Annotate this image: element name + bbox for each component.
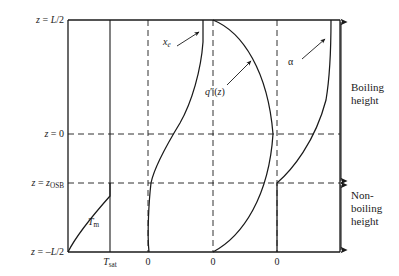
y-tick-text-zero: z = 0 <box>44 128 64 139</box>
x-tick-text-alpha-zero: 0 <box>275 256 280 267</box>
bracket-label-non-boiling-line-2: boiling <box>351 202 382 215</box>
x-tick-label-xe-zero: 0 <box>133 256 163 268</box>
x-tick-text-tsat: Tsat <box>103 256 117 267</box>
figure-container: z = L/2 z = 0 z = zOSB z = –L/2 Tsat 0 0… <box>0 0 399 276</box>
curve-label-heat-transfer-coefficient: α <box>288 56 293 68</box>
x-tick-text-xe-zero: 0 <box>146 256 151 267</box>
y-tick-label-top: z = L/2 <box>4 14 64 26</box>
curve-label-text-xe: xe <box>163 36 171 47</box>
y-tick-label-bottom: z = –L/2 <box>4 246 64 258</box>
bracket-label-boiling-line-2: height <box>351 94 384 107</box>
leader-arrow-heat-flux <box>227 61 251 85</box>
y-tick-text-bottom: z = –L/2 <box>31 246 64 257</box>
curve-label-moderator-temperature: Tm <box>88 216 99 229</box>
bracket-label-non-boiling-height: Non- boiling height <box>351 189 382 228</box>
y-tick-text-osb: z = zOSB <box>32 177 64 188</box>
vertical-reference-lines <box>110 20 277 252</box>
bracket-label-non-boiling-line-3: height <box>351 215 382 228</box>
plot-frame <box>68 20 340 252</box>
curve-heat-flux <box>213 20 273 252</box>
y-tick-label-zero: z = 0 <box>4 128 64 140</box>
curve-label-text-tm: Tm <box>88 216 99 227</box>
x-tick-label-tsat: Tsat <box>90 256 130 269</box>
curve-label-equilibrium-quality: xe <box>163 36 171 49</box>
bracket-label-boiling-height: Boiling height <box>351 81 384 107</box>
x-tick-label-qflux-zero: 0 <box>198 256 228 268</box>
bracket-label-boiling-line-1: Boiling <box>351 81 384 94</box>
curve-label-text-qflux: q″(z) <box>205 86 225 97</box>
curve-heat-transfer-coefficient <box>277 20 331 252</box>
leader-arrow-alpha <box>302 39 325 59</box>
x-tick-text-qflux-zero: 0 <box>211 256 216 267</box>
curve-label-heat-flux: q″(z) <box>205 86 225 98</box>
bracket-label-non-boiling-line-1: Non- <box>351 189 382 202</box>
curve-equilibrium-quality <box>148 20 203 252</box>
y-tick-label-osb: z = zOSB <box>4 177 64 190</box>
curve-label-text-alpha: α <box>288 56 293 67</box>
y-tick-text-top: z = L/2 <box>36 14 64 25</box>
x-tick-label-alpha-zero: 0 <box>262 256 292 268</box>
leader-arrow-xe <box>177 32 199 46</box>
